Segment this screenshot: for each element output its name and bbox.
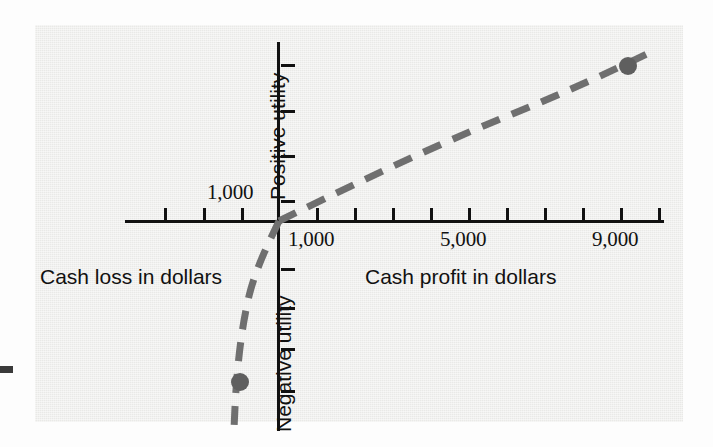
profit-endpoint-marker [619,57,637,75]
cash-loss-utility-curve [234,221,279,430]
figure-canvas: 1,000 1,000 5,000 9,000 Cash loss in dol… [0,0,713,447]
utility-curve-group [0,0,713,447]
cash-profit-utility-curve [279,50,655,221]
loss-endpoint-marker [231,373,249,391]
